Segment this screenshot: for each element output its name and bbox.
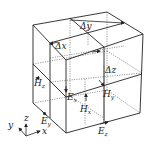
axis-label-x: x bbox=[42, 126, 47, 136]
label-dz: Δz bbox=[104, 65, 116, 75]
ey-arrow bbox=[42, 111, 46, 115]
y-axis-arrow bbox=[19, 128, 26, 136]
hy-arrow bbox=[99, 80, 104, 86]
label-hx: Hx bbox=[79, 104, 92, 115]
yee-cell-diagram: Δy Δx Δz Hz Ex Hy Hx Ey Ez z y x bbox=[0, 0, 157, 147]
dy-arrow bbox=[70, 20, 124, 23]
label-hz: Hz bbox=[33, 78, 46, 89]
axis-label-z: z bbox=[23, 113, 29, 123]
axis-label-y: y bbox=[7, 120, 14, 130]
x-axis-arrow bbox=[26, 131, 40, 136]
label-dy: Δy bbox=[79, 21, 92, 31]
label-dx: Δx bbox=[54, 41, 67, 51]
label-ez: Ez bbox=[97, 126, 109, 137]
